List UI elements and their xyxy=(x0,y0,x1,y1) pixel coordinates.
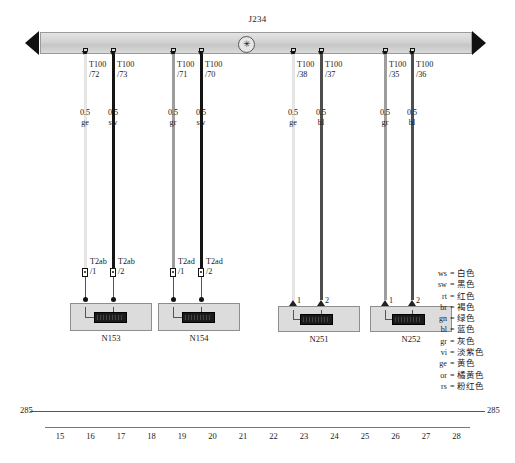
wire-sw xyxy=(112,54,115,268)
legend-row: ws=白色 xyxy=(438,268,484,279)
junction-node xyxy=(111,297,116,302)
busbar-right-arrow-icon xyxy=(472,31,486,55)
legend-abbr: ws xyxy=(438,268,450,279)
legend-row: gn=绿色 xyxy=(438,313,484,324)
legend-equals: = xyxy=(450,381,458,392)
scale-tick: 15 xyxy=(50,431,70,441)
terminal-pin: /36 xyxy=(416,70,426,79)
scale-tick: 16 xyxy=(81,431,101,441)
legend-row: br=褐色 xyxy=(438,302,484,313)
terminal-label: T100/72 xyxy=(89,60,106,79)
terminal-name: T100 xyxy=(297,60,314,69)
legend-row: gr=灰色 xyxy=(438,336,484,347)
scale-tick: 21 xyxy=(233,431,253,441)
legend-row: bl=蓝色 xyxy=(438,324,484,335)
legend-equals: = xyxy=(450,279,458,290)
connector-name: T2ad xyxy=(178,257,195,266)
legend-color-name: 粉红色 xyxy=(457,381,484,392)
terminal-name: T100 xyxy=(177,60,194,69)
wire-gauge: 0.5 xyxy=(400,108,424,118)
internal-lead xyxy=(293,310,294,319)
wire-color-code: ge xyxy=(73,118,97,128)
component-lead xyxy=(113,277,114,299)
ground-symbol-icon: ✳ xyxy=(238,36,255,53)
wire-bl xyxy=(320,54,323,300)
wire-color-code: gr xyxy=(373,118,397,128)
wire-spec-label: 0.5ge xyxy=(73,108,97,127)
component-lead xyxy=(201,277,202,299)
busbar xyxy=(40,32,472,54)
busbar-left-arrow-icon xyxy=(25,31,39,55)
wire-gauge: 0.5 xyxy=(373,108,397,118)
terminal-name: T100 xyxy=(117,60,134,69)
internal-lead xyxy=(173,317,182,318)
legend-color-name: 蓝色 xyxy=(457,324,484,335)
connector-plug-icon[interactable] xyxy=(82,268,88,277)
scale-tick: 25 xyxy=(355,431,375,441)
scale-tick: 17 xyxy=(111,431,131,441)
legend-abbr: gn xyxy=(438,313,450,324)
legend-table: ws=白色sw=黑色rt=红色br=褐色gn=绿色bl=蓝色gr=灰色vi=淡紫… xyxy=(438,268,484,392)
terminal-pin: /73 xyxy=(117,70,127,79)
legend-equals: = xyxy=(450,302,458,313)
terminal-pin: /37 xyxy=(325,70,335,79)
junction-node xyxy=(83,297,88,302)
terminal-label: T100/38 xyxy=(297,60,314,79)
connector-plug-icon[interactable] xyxy=(198,268,204,277)
scale-tick: 23 xyxy=(294,431,314,441)
scale-tick: 26 xyxy=(386,431,406,441)
wire-spec-label: 0.5gr xyxy=(373,108,397,127)
wire-gauge: 0.5 xyxy=(309,108,333,118)
component-name: N251 xyxy=(278,334,360,344)
wire-color-code: bl xyxy=(309,118,333,128)
scale-tick: 22 xyxy=(264,431,284,441)
connector-name: T2ab xyxy=(90,257,107,266)
terminal-name: T100 xyxy=(325,60,342,69)
connector-plug-icon[interactable] xyxy=(170,268,176,277)
wiring-diagram-sheet: J234 ✳ T100/720.5geT2ab/1T100/730.5swT2a… xyxy=(0,0,515,463)
connector-label: T2ad/2 xyxy=(206,257,223,276)
legend-equals: = xyxy=(450,268,458,279)
legend-row: rt=红色 xyxy=(438,291,484,302)
connector-pin: /1 xyxy=(178,267,184,276)
scale-line xyxy=(30,411,485,412)
legend-equals: = xyxy=(450,370,458,381)
internal-lead xyxy=(173,307,174,317)
wire-color-code: sw xyxy=(189,118,213,128)
terminal-pin: /35 xyxy=(389,70,399,79)
internal-lead xyxy=(385,310,386,319)
connector-label: T2ab/2 xyxy=(118,257,135,276)
component-lead xyxy=(85,277,86,299)
legend-row: ge=黄色 xyxy=(438,358,484,369)
busbar-label: J234 xyxy=(0,14,515,24)
terminal-name: T100 xyxy=(416,60,433,69)
connector-label: T2ab/1 xyxy=(90,257,107,276)
connector-plug-icon[interactable] xyxy=(110,268,116,277)
legend-abbr: rs xyxy=(438,381,450,392)
component-element-icon xyxy=(182,312,215,323)
wire-bl xyxy=(411,54,414,300)
component-name: N154 xyxy=(158,333,240,343)
connector-pin-number: 1 xyxy=(389,296,393,306)
wire-spec-label: 0.5sw xyxy=(189,108,213,127)
component-element-icon xyxy=(392,314,425,325)
connector-pin-number: 2 xyxy=(325,296,329,306)
legend-equals: = xyxy=(450,336,458,347)
wire-color-code: ge xyxy=(281,118,305,128)
scale-tick: 18 xyxy=(142,431,162,441)
wire-spec-label: 0.5ge xyxy=(281,108,305,127)
junction-node xyxy=(171,297,176,302)
connector-pin: /2 xyxy=(118,267,124,276)
terminal-name: T100 xyxy=(89,60,106,69)
terminal-label: T100/73 xyxy=(117,60,134,79)
scale-tick: 24 xyxy=(325,431,345,441)
wire-spec-label: 0.5gr xyxy=(161,108,185,127)
terminal-pin: /70 xyxy=(205,70,215,79)
wire-gauge: 0.5 xyxy=(189,108,213,118)
component-element-icon xyxy=(94,312,127,323)
legend-abbr: or xyxy=(438,370,450,381)
terminal-label: T100/71 xyxy=(177,60,194,79)
legend-row: sw=黑色 xyxy=(438,279,484,290)
legend-equals: = xyxy=(450,347,458,358)
wire-spec-label: 0.5sw xyxy=(101,108,125,127)
